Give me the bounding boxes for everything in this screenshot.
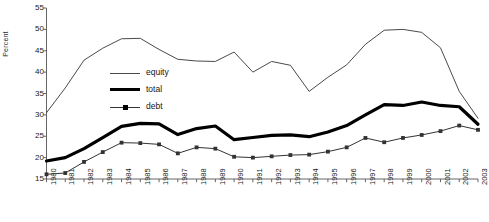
marker-debt-1983 xyxy=(101,150,105,154)
marker-debt-1999 xyxy=(401,136,405,140)
marker-debt-1991 xyxy=(251,156,255,160)
legend-label-debt: debt xyxy=(146,101,163,112)
marker-debt-1994 xyxy=(307,153,311,157)
legend-item-total: total xyxy=(110,82,198,99)
legend-label-total: total xyxy=(146,84,162,95)
marker-debt-2001 xyxy=(439,129,443,133)
marker-debt-1995 xyxy=(326,150,330,154)
marker-debt-1998 xyxy=(382,140,386,144)
marker-debt-1989 xyxy=(213,147,217,151)
marker-debt-1981 xyxy=(63,171,67,175)
marker-debt-1985 xyxy=(138,141,142,145)
marker-debt-1982 xyxy=(82,160,86,164)
marker-debt-1987 xyxy=(176,151,180,155)
marker-debt-1988 xyxy=(195,145,199,149)
marker-debt-1997 xyxy=(364,136,368,140)
marker-debt-1996 xyxy=(345,145,349,149)
marker-debt-2000 xyxy=(420,133,424,137)
legend-swatch-equity xyxy=(110,73,140,74)
legend-item-equity: equity xyxy=(110,65,198,82)
legend-marker-debt xyxy=(123,105,128,110)
marker-debt-2002 xyxy=(457,124,461,128)
marker-debt-1993 xyxy=(288,153,292,157)
legend-label-equity: equity xyxy=(146,67,169,78)
marker-debt-1992 xyxy=(270,154,274,158)
marker-debt-1980 xyxy=(45,172,49,176)
chart-legend: equity total debt xyxy=(110,65,198,116)
legend-item-debt: debt xyxy=(110,99,198,116)
marker-debt-1986 xyxy=(157,142,161,146)
legend-swatch-total xyxy=(110,88,140,91)
marker-debt-1984 xyxy=(120,141,124,145)
marker-debt-1990 xyxy=(232,155,236,159)
marker-debt-2003 xyxy=(476,128,480,132)
legend-swatch-debt xyxy=(110,107,140,108)
